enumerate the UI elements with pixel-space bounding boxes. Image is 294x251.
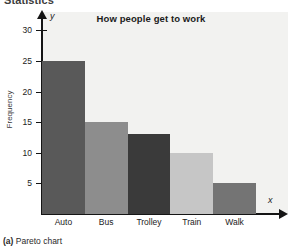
bar-trolley [128,134,171,214]
x-axis-tick-label-auto: Auto [42,217,85,227]
y-axis-tick-label: 20 [10,87,32,97]
bar-train [170,153,213,214]
x-axis-tick-label-trolley: Trolley [128,217,171,227]
bar-bus [85,122,128,214]
y-axis-title: Frequency [5,75,14,145]
bar-auto [42,61,85,214]
y-axis-tick-label: 15 [10,117,32,127]
figure-caption: (a) Pareto chart [3,236,62,246]
y-axis-tick-label: 5 [10,178,32,188]
x-axis-tick-label-bus: Bus [85,217,128,227]
pareto-chart-figure: Statistics How people get to work y x Fr… [0,0,294,251]
x-axis-tick-label-walk: Walk [213,217,256,227]
y-axis-tick-label: 30 [10,25,32,35]
bars-container [42,12,288,214]
x-axis-tick-label-train: Train [170,217,213,227]
bar-walk [213,183,256,214]
caption-label: (a) [3,236,13,246]
page-header-fragment: Statistics [4,0,54,6]
caption-text: Pareto chart [13,236,62,246]
y-axis-tick-label: 10 [10,148,32,158]
y-axis-tick-label: 25 [10,56,32,66]
